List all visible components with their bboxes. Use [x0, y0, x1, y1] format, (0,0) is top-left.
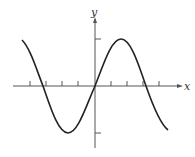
function-graph: x y	[0, 0, 195, 157]
y-axis-label: y	[90, 6, 98, 19]
x-axis-label: x	[184, 80, 191, 93]
x-axis-arrow-icon	[177, 84, 183, 88]
